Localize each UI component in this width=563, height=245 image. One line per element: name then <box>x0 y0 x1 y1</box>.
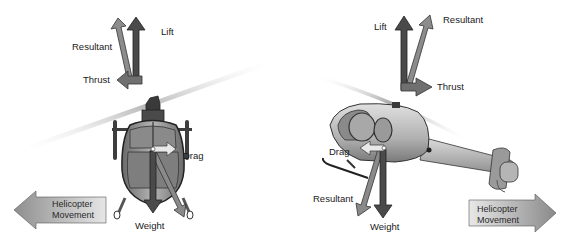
right-drag-label: Drag <box>329 147 350 157</box>
left-thrust-label: Thrust <box>83 75 110 85</box>
right-movement-label: Helicopter Movement <box>477 204 519 226</box>
left-resultant-label: Resultant <box>72 42 112 52</box>
left-movement-label: Helicopter Movement <box>52 199 94 221</box>
left-drag-label: Drag <box>183 151 204 161</box>
left-weight-label: Weight <box>135 221 164 231</box>
left-lift-label: Lift <box>161 27 174 37</box>
right-resultant-bottom-label: Resultant <box>313 194 353 204</box>
resultant-arrow <box>407 15 433 84</box>
helicopter-forces-diagram: Lift Resultant Thrust Drag Weight Helico… <box>0 0 563 245</box>
right-force-vectors-top <box>395 15 433 96</box>
movement-line1: Helicopter <box>52 199 94 210</box>
movement-line2: Movement <box>477 215 519 226</box>
helicopter-side-view <box>323 102 518 192</box>
left-force-vectors-top <box>111 17 145 89</box>
right-lift-label: Lift <box>374 22 387 32</box>
movement-line1: Helicopter <box>477 204 519 215</box>
right-resultant-label: Resultant <box>443 15 483 25</box>
right-weight-label: Weight <box>370 222 399 232</box>
right-thrust-label: Thrust <box>437 82 464 92</box>
movement-line2: Movement <box>52 210 94 221</box>
